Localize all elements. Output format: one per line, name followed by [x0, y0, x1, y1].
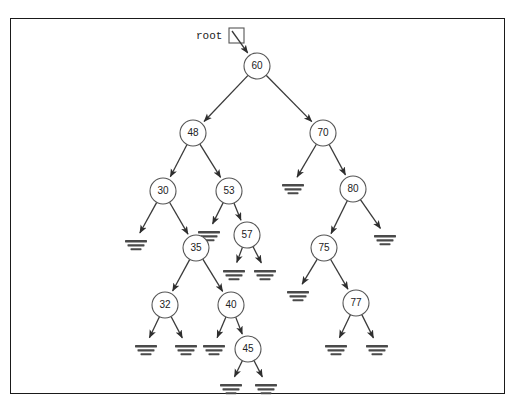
- tree-node-40[interactable]: 40: [218, 292, 244, 318]
- tree-edge-right: [236, 317, 243, 334]
- tree-edge-right: [329, 144, 345, 174]
- tree-edge-left: [302, 259, 317, 284]
- null-ground-icon: [254, 270, 276, 280]
- binary-tree-graphic: 60487030538035577532407745 root: [0, 0, 517, 413]
- tree-node-80[interactable]: 80: [340, 176, 366, 202]
- null-markers-layer: [125, 184, 396, 394]
- tree-edge-left: [170, 145, 187, 177]
- null-ground-icon: [325, 345, 347, 355]
- tree-node-label: 53: [223, 185, 235, 196]
- tree-node-70[interactable]: 70: [310, 120, 336, 146]
- tree-edge-right: [331, 259, 348, 289]
- tree-node-32[interactable]: 32: [152, 292, 178, 318]
- tree-node-60[interactable]: 60: [244, 53, 270, 79]
- tree-edge-right: [362, 315, 374, 338]
- tree-node-35[interactable]: 35: [183, 235, 209, 261]
- tree-node-label: 75: [318, 242, 330, 253]
- tree-edge-left: [234, 361, 242, 377]
- root-pointer: root: [196, 28, 248, 53]
- tree-edge-left: [331, 201, 347, 234]
- null-ground-icon: [203, 345, 225, 355]
- tree-edge-right: [170, 202, 188, 234]
- null-ground-icon: [175, 345, 197, 355]
- tree-node-label: 32: [159, 299, 171, 310]
- tree-edge-right: [254, 361, 262, 377]
- edges-layer: [140, 75, 381, 377]
- tree-node-label: 70: [317, 127, 329, 138]
- null-ground-icon: [255, 384, 277, 394]
- tree-edge-right: [200, 144, 221, 177]
- root-pointer-box[interactable]: [229, 28, 244, 43]
- tree-node-label: 48: [187, 127, 199, 138]
- tree-edge-right: [234, 203, 241, 220]
- tree-node-label: 40: [225, 299, 237, 310]
- tree-edge-right: [360, 200, 380, 229]
- tree-node-label: 45: [242, 343, 254, 354]
- tree-node-53[interactable]: 53: [216, 178, 242, 204]
- tree-edge-left: [140, 202, 157, 233]
- tree-node-75[interactable]: 75: [311, 235, 337, 261]
- tree-edge-right: [253, 247, 261, 263]
- root-pointer-label: root: [196, 30, 222, 42]
- null-ground-icon: [223, 270, 245, 280]
- tree-edge-left: [204, 75, 248, 121]
- tree-edge-left: [339, 315, 350, 338]
- null-ground-icon: [282, 184, 304, 194]
- nodes-layer: 60487030538035577532407745: [150, 53, 369, 362]
- tree-edge-left: [213, 203, 224, 224]
- tree-node-57[interactable]: 57: [234, 222, 260, 248]
- null-ground-icon: [366, 345, 388, 355]
- tree-edge-right: [203, 259, 223, 291]
- tree-edge-right: [171, 317, 182, 338]
- null-ground-icon: [135, 345, 157, 355]
- tree-node-48[interactable]: 48: [180, 120, 206, 146]
- tree-diagram-canvas: 60487030538035577532407745 root: [0, 0, 517, 413]
- tree-edge-right: [266, 75, 312, 121]
- tree-edge-left: [217, 317, 226, 338]
- tree-node-label: 57: [241, 229, 253, 240]
- tree-node-30[interactable]: 30: [150, 178, 176, 204]
- tree-node-label: 35: [190, 242, 202, 253]
- tree-node-77[interactable]: 77: [343, 290, 369, 316]
- tree-node-label: 60: [251, 60, 263, 71]
- tree-node-label: 30: [157, 185, 169, 196]
- null-ground-icon: [220, 384, 242, 394]
- tree-edge-left: [149, 317, 159, 338]
- tree-node-label: 80: [347, 183, 359, 194]
- tree-edge-left: [297, 144, 316, 177]
- null-ground-icon: [125, 240, 147, 250]
- tree-edge-left: [237, 247, 243, 262]
- tree-edge-left: [173, 259, 190, 291]
- null-ground-icon: [374, 235, 396, 245]
- null-ground-icon: [287, 291, 309, 301]
- tree-node-label: 77: [350, 297, 362, 308]
- tree-node-45[interactable]: 45: [235, 336, 261, 362]
